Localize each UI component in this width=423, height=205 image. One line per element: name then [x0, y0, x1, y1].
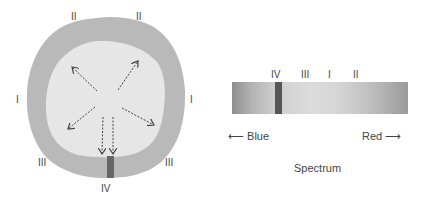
label-iii-bottom-left: III	[38, 158, 46, 168]
spectrum-label-ii: II	[353, 70, 359, 80]
absorption-notch	[107, 156, 114, 178]
spectrum-bar	[232, 82, 408, 114]
label-ii-top-left: II	[71, 12, 77, 22]
label-iv-bottom: IV	[101, 184, 110, 194]
absorption-line	[275, 82, 282, 114]
label-iii-bottom-right: III	[165, 158, 173, 168]
spectrum-label-i: I	[328, 70, 331, 80]
label-ii-top-right: II	[136, 12, 142, 22]
label-i-right: I	[190, 95, 193, 105]
spectrum-caption: Spectrum	[294, 162, 341, 174]
red-direction-label: Red ⟶	[362, 130, 401, 143]
spectrum-label-iv: IV	[271, 70, 280, 80]
label-i-left: I	[16, 95, 19, 105]
blue-direction-label: ⟵ Blue	[228, 130, 269, 143]
star-inner-core	[46, 41, 165, 157]
spectrum-label-iii: III	[301, 70, 309, 80]
